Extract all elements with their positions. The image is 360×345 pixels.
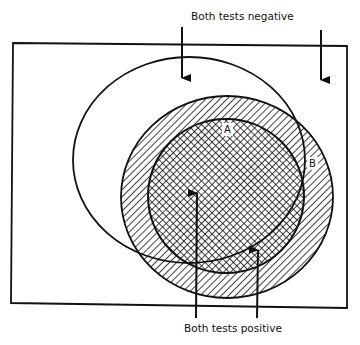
region-label-b: B	[307, 157, 318, 170]
arrow-positive-right	[257, 250, 258, 318]
crosshatched-circle	[148, 119, 304, 273]
label-both-tests-positive: Both tests positive	[184, 322, 282, 334]
arrow-positive-left	[196, 193, 197, 318]
label-both-tests-negative: Both tests negative	[191, 10, 294, 22]
region-label-a: A	[222, 123, 233, 136]
venn-diagram	[0, 0, 360, 345]
